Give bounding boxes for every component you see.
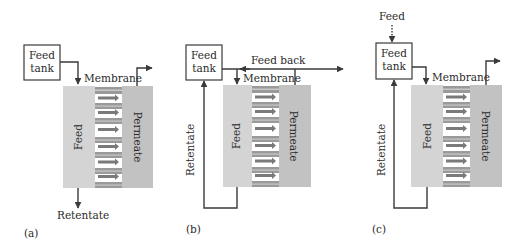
panel-c: Feed Permeate Feed Feed tank Membrane Re… <box>372 10 502 235</box>
panel-label: (b) <box>186 223 201 235</box>
permeate-side-label: Permeate <box>480 111 492 162</box>
membrane-label: Membrane <box>243 72 301 84</box>
feed-tank-label-line1: Feed <box>381 47 407 59</box>
membrane-module: Feed Permeate <box>411 85 502 187</box>
feed-tank-label-line2: tank <box>30 62 54 74</box>
feed-side-label: Feed <box>421 123 433 149</box>
feed-tank-label-line2: tank <box>192 62 216 74</box>
panel-label: (a) <box>24 227 38 239</box>
feed-flow-arrow <box>60 62 78 84</box>
feed-tank-label-line1: Feed <box>29 49 55 61</box>
feed-in-label: Feed <box>379 10 405 22</box>
membrane-configurations-diagram: Feed Permeate Feed tank Membrane Retenta… <box>0 0 523 251</box>
feed-tank-label-line2: tank <box>382 60 406 72</box>
feed-back-label: Feed back <box>251 54 306 66</box>
panel-b: Feed Permeate Feed tank Feed back Membra… <box>184 45 343 235</box>
membrane-module: Feed Permeate <box>223 85 311 187</box>
feed-side-label: Feed <box>230 123 242 149</box>
membrane-strip <box>252 85 279 187</box>
membrane-label: Membrane <box>84 72 142 84</box>
panel-label: (c) <box>372 223 386 235</box>
membrane-label: Membrane <box>432 71 490 83</box>
permeate-side-label: Permeate <box>132 112 144 163</box>
retentate-label: Retentate <box>57 209 109 221</box>
feed-tank-label-line1: Feed <box>191 49 217 61</box>
membrane-module: Feed Permeate <box>63 86 153 188</box>
feed-flow-arrow <box>412 67 426 84</box>
permeate-side-label: Permeate <box>288 111 300 162</box>
panel-a: Feed Permeate Feed tank Membrane Retenta… <box>24 45 153 239</box>
membrane-strip <box>95 86 122 188</box>
feed-side-label: Feed <box>72 124 84 150</box>
retentate-label: Retentate <box>184 124 196 176</box>
retentate-label: Retentate <box>375 124 387 176</box>
membrane-strip <box>443 85 470 187</box>
